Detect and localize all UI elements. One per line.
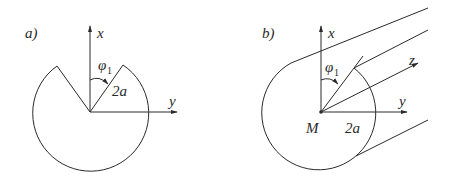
angle-subscript-b: 1 (334, 67, 339, 78)
figure: a) x y φ 1 2a b) x y z φ 1 M 2a (0, 0, 450, 179)
angle-arc (90, 78, 108, 84)
panel-b: b) x y z φ 1 M 2a (262, 8, 428, 170)
x-axis-label-b: x (327, 25, 335, 41)
panel-b-label: b) (262, 25, 275, 42)
cut-disk-arc (33, 65, 149, 171)
y-axis-label-b: y (397, 93, 406, 109)
origin-label: M (305, 120, 320, 136)
cylinder-line-top (291, 8, 428, 63)
panel-a-label: a) (25, 25, 38, 42)
angle-subscript: 1 (107, 65, 112, 76)
panel-a: a) x y φ 1 2a (25, 25, 177, 171)
x-axis-label: x (96, 25, 104, 41)
radius-label: 2a (112, 83, 127, 99)
cylinder-line-bottom (356, 120, 428, 156)
disk-arc (262, 63, 376, 170)
angle-arc-b (321, 79, 338, 84)
notch-edge-left (57, 66, 90, 112)
angle-label-b: φ (325, 59, 333, 75)
origin-point (319, 110, 323, 114)
y-axis-label: y (167, 93, 176, 109)
angle-label: φ (98, 57, 106, 73)
z-axis-label-b: z (408, 52, 415, 68)
radius-label-b: 2a (345, 120, 360, 136)
cylinder-line-cut (354, 30, 428, 68)
